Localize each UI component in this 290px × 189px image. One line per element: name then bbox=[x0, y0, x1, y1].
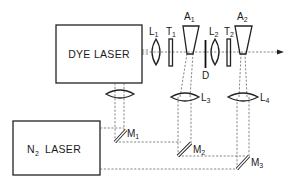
label-A2: A2 bbox=[237, 11, 248, 23]
lens-L3-icon bbox=[171, 93, 199, 101]
label-A1: A1 bbox=[184, 11, 195, 23]
plate-T1-icon bbox=[169, 39, 173, 66]
label-L4: L4 bbox=[260, 92, 270, 104]
label-T1: T1 bbox=[166, 26, 176, 38]
lens-L4-icon bbox=[228, 93, 258, 101]
pump-focus bbox=[245, 54, 247, 97]
amplifier-A1-icon bbox=[183, 26, 199, 54]
label-M3: M3 bbox=[251, 157, 263, 169]
dye-laser-label: DYE LASER bbox=[68, 48, 130, 60]
pump-lens-dye-icon bbox=[106, 90, 134, 98]
label-L1: L1 bbox=[149, 26, 159, 38]
output-arrow-icon bbox=[277, 50, 284, 55]
label-M1: M1 bbox=[127, 128, 139, 140]
mirror-M1-icon bbox=[115, 130, 126, 142]
label-M2: M2 bbox=[193, 144, 205, 156]
optical-diagram: DYE LASER N2LASER L1 T1 A1 D L2 T2 A2 L3 bbox=[0, 0, 290, 189]
mirror-M3-icon bbox=[237, 156, 249, 169]
n2-laser-label: N2LASER bbox=[27, 143, 81, 157]
pump-focus bbox=[180, 54, 187, 97]
pump-focus bbox=[239, 54, 241, 97]
mirror-M2-icon bbox=[178, 143, 191, 156]
label-L3: L3 bbox=[201, 92, 211, 104]
amplifier-A2-icon bbox=[235, 26, 252, 54]
label-L2: L2 bbox=[209, 26, 219, 38]
label-D: D bbox=[202, 70, 209, 81]
pump-focus bbox=[190, 54, 193, 97]
label-T2: T2 bbox=[224, 26, 234, 38]
plate-T2-icon bbox=[227, 39, 231, 66]
